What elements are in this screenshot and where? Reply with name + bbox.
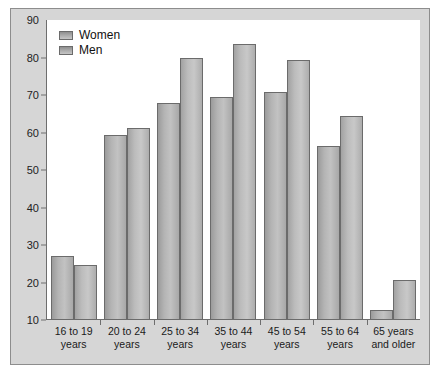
x-axis-label-line: years	[260, 338, 313, 351]
x-axis-label: 65 yearsand older	[367, 325, 420, 351]
bar-women	[370, 310, 393, 321]
x-axis-label-line: years	[154, 338, 207, 351]
bar-women	[157, 103, 180, 321]
x-axis-label-line: years	[207, 338, 260, 351]
x-axis-label-line: 20 to 24	[100, 325, 153, 338]
bars-layer	[47, 20, 420, 320]
bar-group	[154, 20, 207, 320]
x-axis-label: 20 to 24years	[100, 325, 153, 351]
y-axis-tick-label: 20	[27, 277, 39, 288]
y-axis-tick-label: 40	[27, 202, 39, 213]
y-axis-tick-label: 90	[27, 15, 39, 26]
y-axis-tick-label: 60	[27, 127, 39, 138]
x-axis-label-line: 45 to 54	[260, 325, 313, 338]
x-axis-label-line: years	[47, 338, 100, 351]
bar-men	[287, 60, 310, 320]
bar-women	[317, 146, 340, 320]
x-axis-label: 55 to 64years	[313, 325, 366, 351]
y-axis-tick-label: 30	[27, 240, 39, 251]
bar-men	[180, 58, 203, 320]
bar-men	[74, 265, 97, 320]
x-axis-label: 25 to 34years	[154, 325, 207, 351]
bar-group	[47, 20, 100, 320]
bar-women	[51, 256, 74, 320]
bar-group	[313, 20, 366, 320]
bar-women	[210, 97, 233, 320]
x-axis-label-line: 35 to 44	[207, 325, 260, 338]
bar-men	[340, 116, 363, 320]
bar-group	[260, 20, 313, 320]
x-axis-label-line: 55 to 64	[313, 325, 366, 338]
bar-men	[393, 280, 416, 320]
y-axis: 102030405060708090	[11, 9, 46, 321]
x-axis-label-line: years	[100, 338, 153, 351]
bar-group	[367, 20, 420, 320]
x-axis-label-line: 65 years	[367, 325, 420, 338]
bar-women	[264, 92, 287, 320]
x-axis-label-line: and older	[367, 338, 420, 351]
y-axis-tick-label: 50	[27, 165, 39, 176]
y-axis-tick-label: 70	[27, 90, 39, 101]
x-axis-label: 45 to 54years	[260, 325, 313, 351]
y-axis-tick-label: 10	[27, 315, 39, 326]
chart-frame: 102030405060708090 Women Men 16 to 19yea…	[10, 8, 430, 365]
x-axis-label: 35 to 44years	[207, 325, 260, 351]
x-axis-label-line: 16 to 19	[47, 325, 100, 338]
x-axis-label-line: years	[313, 338, 366, 351]
y-axis-tick-label: 80	[27, 52, 39, 63]
x-axis-label-line: 25 to 34	[154, 325, 207, 338]
bar-group	[100, 20, 153, 320]
x-axis: 16 to 19years20 to 24years25 to 34years3…	[47, 325, 420, 361]
bar-women	[104, 135, 127, 320]
bar-men	[127, 128, 150, 320]
bar-men	[233, 44, 256, 320]
bar-group	[207, 20, 260, 320]
x-axis-label: 16 to 19years	[47, 325, 100, 351]
